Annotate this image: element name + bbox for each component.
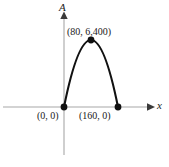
vertex-point-label: (80, 6,400) bbox=[67, 27, 111, 37]
parabola-figure: A x (80, 6,400) (0, 0) (160, 0) bbox=[0, 0, 169, 167]
point-origin bbox=[61, 104, 68, 111]
root-point-label: (160, 0) bbox=[79, 111, 111, 121]
point-vertex bbox=[88, 37, 95, 44]
parabola-curve bbox=[64, 40, 118, 107]
origin-point-label: (0, 0) bbox=[37, 111, 59, 121]
x-axis-label: x bbox=[157, 100, 162, 111]
point-root bbox=[115, 104, 122, 111]
x-axis-arrowhead bbox=[147, 103, 155, 111]
y-axis-label: A bbox=[59, 2, 66, 13]
